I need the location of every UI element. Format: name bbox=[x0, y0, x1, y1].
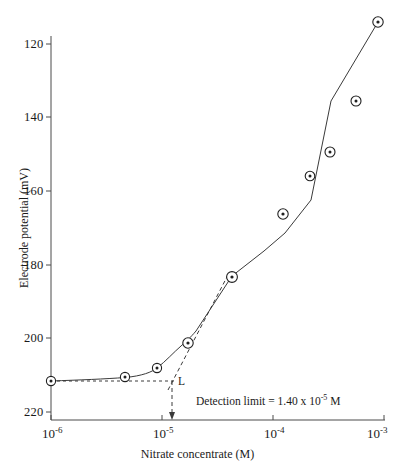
x-axis-title: Nitrate concentrate (M) bbox=[0, 448, 395, 460]
x-tick-base-0: 10 bbox=[42, 426, 55, 441]
x-tick-label-1e-5: 10-5 bbox=[153, 426, 174, 440]
y-tick-label-220: 220 bbox=[24, 406, 43, 419]
y-tick-label-200: 200 bbox=[24, 332, 43, 345]
y-tick-label-120: 120 bbox=[24, 38, 43, 51]
y-axis-ticks bbox=[46, 44, 51, 412]
linear-extrapolation-dashed bbox=[168, 275, 228, 390]
detection-limit-suffix: M bbox=[327, 395, 340, 407]
x-tick-label-1e-6: 10-6 bbox=[42, 426, 63, 440]
limit-point-label: L bbox=[178, 376, 185, 388]
x-tick-exp-3: -3 bbox=[380, 425, 388, 435]
x-tick-label-1e-4: 10-4 bbox=[264, 426, 285, 440]
x-tick-base-2: 10 bbox=[264, 426, 277, 441]
data-markers bbox=[46, 17, 383, 386]
detection-limit-prefix: Detection limit = 1.40 x 10 bbox=[196, 395, 321, 407]
y-axis-title: Electrode potential (mV) bbox=[18, 148, 30, 308]
response-curve bbox=[51, 22, 378, 381]
x-tick-exp-1: -5 bbox=[166, 425, 174, 435]
x-tick-exp-2: -4 bbox=[277, 425, 285, 435]
x-tick-base-3: 10 bbox=[367, 426, 380, 441]
x-tick-label-1e-3: 10-3 bbox=[367, 426, 388, 440]
x-axis-ticks bbox=[51, 415, 384, 420]
y-tick-label-140: 140 bbox=[24, 111, 43, 124]
detection-limit-arrowhead bbox=[169, 412, 175, 420]
detection-limit-annotation: Detection limit = 1.40 x 10-5 M bbox=[196, 394, 340, 407]
electrode-potential-chart: 120 140 160 180 200 220 10-6 10-5 10-4 1… bbox=[0, 0, 395, 469]
x-tick-exp-0: -6 bbox=[55, 425, 63, 435]
x-tick-base-1: 10 bbox=[153, 426, 166, 441]
